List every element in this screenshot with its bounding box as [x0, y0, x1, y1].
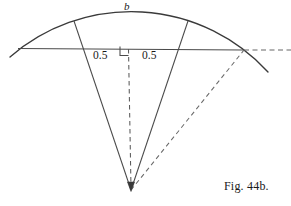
figure-caption: Fig. 44b. [224, 180, 269, 192]
radius-right [131, 21, 188, 190]
geometry-diagram [0, 0, 291, 206]
right-angle-marker [120, 47, 129, 56]
half-chord-label-right: 0.5 [142, 50, 156, 62]
figure-container: b 0.5 0.5 Fig. 44b. [0, 0, 291, 206]
arc-length-label: b [124, 1, 130, 12]
center-axis-dashed [129, 49, 132, 188]
arc-path [10, 12, 268, 72]
diagonal-radius-dashed [131, 50, 244, 190]
radius-left [74, 21, 131, 190]
half-chord-label-left: 0.5 [93, 50, 107, 62]
chord-line [18, 49, 244, 51]
